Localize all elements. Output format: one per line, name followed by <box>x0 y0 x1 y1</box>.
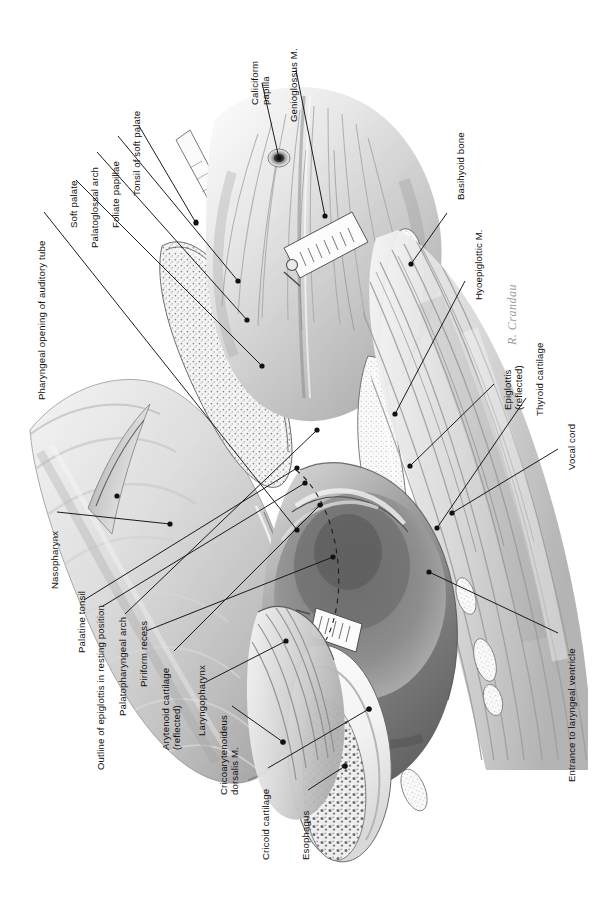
label-genioglossus-m: Genioglossus M. <box>288 48 299 122</box>
callout-label-layer: Pharyngeal opening of auditory tube Soft… <box>0 0 610 905</box>
label-cricoid-cartilage: Cricoid cartilage <box>260 789 271 860</box>
label-esophagus: Esophagus <box>300 811 311 860</box>
label-piriform-recess: Piriform recess <box>138 621 149 687</box>
label-entrance-to-laryngeal-ventricle: Entrance to laryngeal ventricle <box>566 648 577 782</box>
label-epiglottis-reflected: Epiglottis (reflected) <box>502 365 524 410</box>
label-palatopharyngeal-arch: Palatopharyngeal arch <box>117 617 128 716</box>
label-caliciform-papilla: Caliciform papilla <box>249 61 271 105</box>
label-vocal-cord: Vocal cord <box>566 424 577 470</box>
label-laryngopharynx: Laryngopharynx <box>196 665 207 736</box>
label-basihyoid-bone: Basihyoid bone <box>455 132 466 200</box>
label-nasopharynx: Nasopharynx <box>49 531 60 589</box>
textbook-figure-page: 130 ANATOMY AND PHYSIOLOGY OF DOMESTIC A… <box>0 0 610 905</box>
label-arytenoid-cartilage-reflected: Arytenoid cartilage (reflected) <box>160 668 182 750</box>
label-palatoglossal-arch: Palatoglossal arch <box>89 167 100 248</box>
label-palatine-tonsil: Palatine tonsil <box>76 591 87 653</box>
label-cricoarytenoideus-dorsalis-m: Cricoarytenoideus dorsalis M. <box>218 715 240 795</box>
label-hyoepiglottic-m: Hyoepiglottic M. <box>473 229 484 300</box>
label-foliate-papillae: Foliate papillae <box>110 161 121 228</box>
label-outline-of-epiglottis-in-resting-position: Outline of epiglottis in resting positio… <box>95 605 106 770</box>
artist-signature: R. Crandau <box>505 284 520 345</box>
label-tonsil-of-soft-palate: Tonsil of soft palate <box>131 111 142 196</box>
label-soft-palate: Soft palate <box>68 180 79 228</box>
label-pharyngeal-opening-of-auditory-tube: Pharyngeal opening of auditory tube <box>36 241 47 400</box>
label-thyroid-cartilage: Thyroid cartilage <box>534 343 545 416</box>
